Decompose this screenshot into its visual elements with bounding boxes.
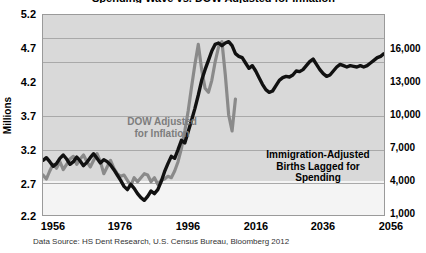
x-tick-0: 1956 [30, 220, 76, 232]
x-tick-2: 1996 [165, 220, 211, 232]
chart-title: Spending Wave vs. DOW Adjusted for Infla… [42, 0, 385, 3]
source-caption: Data Source: HS Dent Research, U.S. Cens… [33, 237, 289, 246]
y-tick-left-0: 5.2 [2, 9, 36, 20]
annotation-dow: DOW Adjusted for Inflation [101, 116, 223, 139]
x-tick-4: 2036 [300, 220, 346, 232]
y-tick-right-2: 10,000 [390, 110, 426, 120]
y-tick-right-4: 4,000 [390, 176, 426, 186]
x-tick-1: 1976 [97, 220, 143, 232]
y-tick-right-5: 1,000 [390, 209, 426, 219]
series-canvas [43, 15, 384, 215]
chart-page: Spending Wave vs. DOW Adjusted for Infla… [0, 0, 426, 253]
y-tick-left-4: 3.2 [2, 145, 36, 156]
annotation-births: Immigration-Adjusted Births Lagged for S… [233, 149, 385, 184]
y-tick-left-1: 4.7 [2, 43, 36, 54]
y-tick-left-3: 3.7 [2, 111, 36, 122]
x-tick-5: 2056 [368, 220, 414, 232]
y-tick-right-3: 7,000 [390, 143, 426, 153]
x-tick-3: 2016 [233, 220, 279, 232]
y-tick-right-1: 13,000 [390, 77, 426, 87]
y-tick-left-5: 2.7 [2, 179, 36, 190]
y-tick-left-2: 4.2 [2, 77, 36, 88]
plot-area: DOW Adjusted for Inflation Immigration-A… [42, 14, 385, 216]
y-tick-right-0: 16,000 [390, 44, 426, 54]
